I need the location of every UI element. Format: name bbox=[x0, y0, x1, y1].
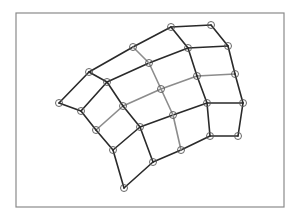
plot-frame bbox=[16, 13, 284, 207]
mesh-diagram bbox=[0, 0, 296, 218]
